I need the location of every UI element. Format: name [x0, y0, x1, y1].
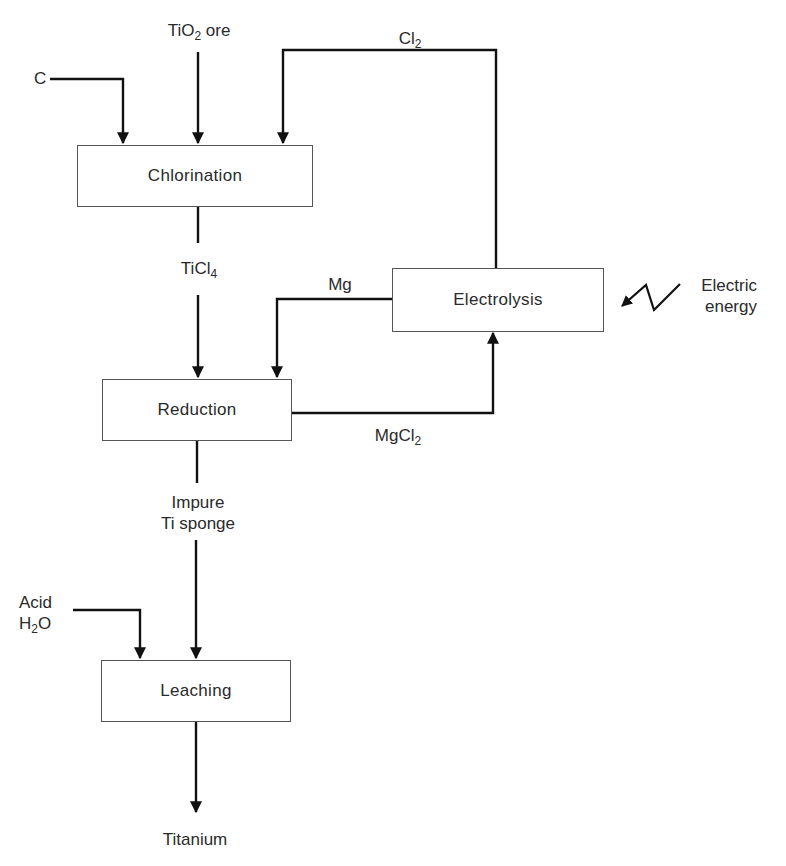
mg-recycle-arrow: [277, 299, 392, 377]
electrolysis-label: Electrolysis: [453, 290, 543, 310]
mgcl2-label: MgCl2: [375, 425, 421, 446]
tio2-ore-label: TiO2 ore: [168, 20, 231, 41]
electric-energy-icon: [622, 284, 680, 310]
acid-feed-arrow: [73, 610, 140, 658]
impure-ti-sponge-label: Impure Ti sponge: [161, 492, 235, 534]
electric-energy-label: Electric energy: [699, 275, 757, 317]
reduction-label: Reduction: [157, 400, 236, 420]
mg-label: Mg: [328, 274, 352, 295]
chlorination-label: Chlorination: [148, 166, 242, 186]
leaching-box: Leaching: [101, 660, 291, 722]
leaching-label: Leaching: [160, 681, 231, 701]
mgcl2-arrow: [291, 333, 493, 413]
titanium-product-label: Titanium: [163, 829, 228, 850]
ticl4-label: TiCl4: [181, 258, 217, 279]
acid-water-label: Acid H2O: [19, 592, 52, 634]
chlorination-box: Chlorination: [77, 145, 313, 207]
carbon-feed-arrow: [50, 79, 123, 143]
carbon-label: C: [34, 68, 46, 89]
electrolysis-box: Electrolysis: [392, 268, 604, 332]
cl2-recycle-arrow: [283, 50, 496, 268]
reduction-box: Reduction: [102, 379, 292, 441]
cl2-label: Cl2: [399, 28, 422, 49]
